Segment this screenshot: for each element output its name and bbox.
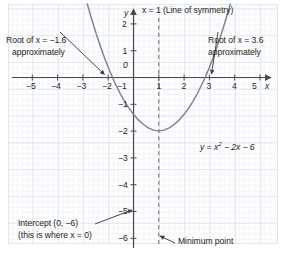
tick-y--2: −2	[118, 126, 128, 136]
annotation-intercept-line1: Intercept (0, −6)	[18, 218, 78, 229]
tick-x-1: 1	[157, 81, 162, 91]
tick-y-1: 1	[123, 46, 128, 56]
tick-y--4: −4	[118, 180, 128, 190]
equation-rhs: − 2x − 6	[222, 142, 255, 152]
tick-origin: 0	[123, 60, 128, 70]
tick-y--3: −3	[118, 153, 128, 163]
tick-x--3: −3	[77, 81, 87, 91]
tick-x-5: 5	[252, 81, 257, 91]
tick-x--5: −5	[26, 81, 36, 91]
tick-x--4: −4	[51, 81, 61, 91]
tick-x--1: −1	[117, 81, 127, 91]
y-axis-label: y	[124, 8, 128, 18]
x-axis-label: x	[265, 81, 269, 91]
annotation-root-left-line1: Root of x = −1.6	[6, 35, 66, 46]
tick-y--6: −6	[118, 233, 128, 243]
tick-y--5: −5	[118, 206, 128, 216]
tick-y-2: 2	[122, 19, 127, 29]
parabola-curve	[87, 4, 230, 131]
annotation-root-right-line1: Root of x = 3.6	[208, 35, 263, 46]
annotation-line-of-symmetry: x = 1 (Line of symmetry)	[142, 5, 233, 16]
equation-lhs: y = x	[200, 142, 218, 152]
annotation-intercept-line2: (this is where x = 0)	[18, 230, 92, 241]
tick-x--2: −2	[102, 81, 112, 91]
annotation-root-right-line2: approximately	[208, 47, 261, 58]
leader-minimum	[160, 236, 175, 243]
tick-x-3: 3	[207, 81, 212, 91]
graph-figure: y x 0 −5 −4 −3 −2 −1 1 2 3 4 5 2 1 −1 −2…	[0, 0, 291, 256]
annotation-equation: y = x2 − 2x − 6	[200, 139, 255, 152]
annotation-minimum-point: Minimum point	[178, 236, 233, 247]
tick-x-4: 4	[232, 81, 237, 91]
tick-y--1: −1	[118, 99, 128, 109]
tick-x-2: 2	[182, 81, 187, 91]
annotation-root-left-line2: approximately	[12, 47, 65, 58]
